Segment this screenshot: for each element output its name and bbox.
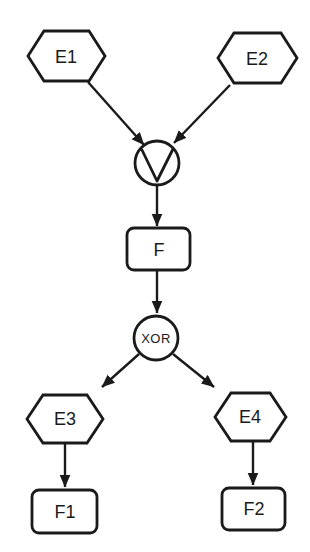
node-or-gate (135, 141, 179, 185)
node-f-label: F (154, 240, 165, 260)
edge-e1-to-or (88, 82, 144, 145)
node-e3: E3 (27, 395, 103, 443)
edge-e2-to-or (174, 85, 230, 143)
node-xor-gate: XOR (134, 316, 178, 360)
node-f2-label: F2 (243, 499, 264, 519)
node-e1: E1 (28, 31, 105, 81)
node-e4: E4 (215, 393, 286, 441)
node-e2: E2 (218, 33, 297, 83)
node-e3-label: E3 (54, 409, 76, 429)
node-f2: F2 (222, 488, 285, 530)
flow-diagram: E1 E2 F XOR E3 E4 (0, 0, 310, 552)
node-f1: F1 (32, 490, 97, 533)
node-f1-label: F1 (54, 502, 75, 522)
edge-xor-to-e3 (102, 354, 139, 387)
node-e4-label: E4 (239, 407, 261, 427)
diagram-canvas: E1 E2 F XOR E3 E4 (0, 0, 310, 552)
edge-xor-to-e4 (173, 354, 214, 387)
xor-gate-label: XOR (141, 331, 171, 346)
node-e1-label: E1 (55, 47, 77, 67)
node-f: F (127, 228, 190, 270)
node-e2-label: E2 (246, 49, 268, 69)
